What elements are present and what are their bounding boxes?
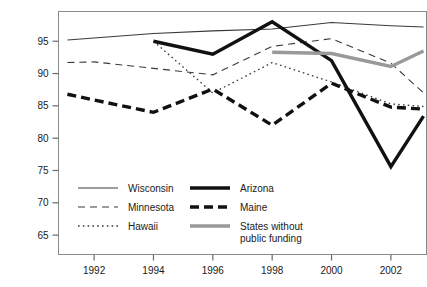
- series-line-maine: [67, 83, 423, 125]
- y-tick-label: 75: [37, 165, 49, 176]
- legend-label-hawaii: Hawaii: [128, 221, 158, 232]
- legend-label-wisconsin: Wisconsin: [128, 183, 174, 194]
- y-tick-label: 95: [37, 36, 49, 47]
- chart-container: 65707580859095 199219941996199820002002 …: [0, 0, 427, 287]
- legend-label-states-without: States without: [240, 221, 303, 232]
- series-line-arizona: [153, 22, 423, 167]
- x-tick-label: 2000: [320, 265, 343, 276]
- x-tick-label: 2002: [380, 265, 403, 276]
- x-tick-label: 1992: [83, 265, 106, 276]
- y-axis: 65707580859095: [37, 36, 58, 241]
- x-tick-label: 1994: [142, 265, 165, 276]
- series-layer: [67, 22, 423, 167]
- chart-legend: WisconsinMinnesotaHawaiiArizonaMaineStat…: [78, 183, 303, 244]
- legend-label-public-funding: public funding: [240, 233, 302, 244]
- series-line-states-without-public-funding: [272, 51, 423, 67]
- legend-label-minnesota: Minnesota: [128, 202, 175, 213]
- x-tick-label: 1996: [202, 265, 225, 276]
- y-tick-label: 90: [37, 68, 49, 79]
- y-tick-label: 85: [37, 100, 49, 111]
- x-axis: 199219941996199820002002: [83, 255, 402, 276]
- y-tick-label: 70: [37, 197, 49, 208]
- y-tick-label: 80: [37, 133, 49, 144]
- line-chart: 65707580859095 199219941996199820002002 …: [0, 0, 427, 287]
- x-tick-label: 1998: [261, 265, 284, 276]
- legend-label-arizona: Arizona: [240, 183, 274, 194]
- y-tick-label: 65: [37, 230, 49, 241]
- legend-label-maine: Maine: [240, 202, 268, 213]
- series-line-minnesota: [67, 39, 423, 93]
